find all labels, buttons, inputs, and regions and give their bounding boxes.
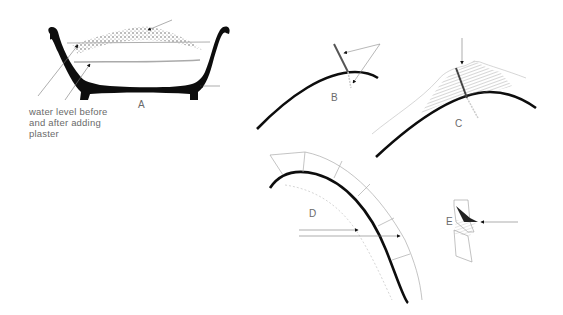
panel-a-bowl (38, 20, 230, 100)
caption-line-3: plaster (29, 128, 139, 139)
panel-d-arc (270, 152, 422, 303)
water-level-caption: water level before and after adding plas… (29, 106, 139, 139)
panel-label-b: B (331, 92, 338, 103)
panel-b-curve (257, 44, 380, 129)
caption-line-1: water level before (29, 106, 139, 117)
diagram-canvas (0, 0, 563, 315)
panel-c-mound (372, 38, 536, 157)
panel-label-c: C (455, 118, 462, 129)
panel-label-e: E (446, 216, 453, 227)
panel-label-d: D (309, 208, 316, 219)
panel-label-a: A (138, 99, 145, 110)
panel-e-joint (454, 200, 518, 262)
caption-line-2: and after adding (29, 117, 139, 128)
